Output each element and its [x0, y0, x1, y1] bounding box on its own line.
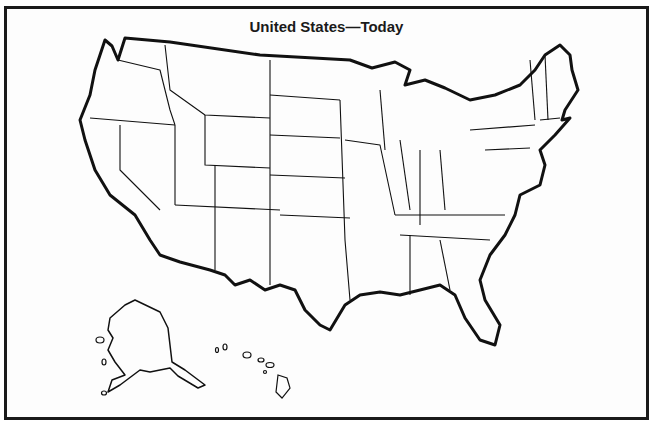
- us-outline-map: [0, 0, 655, 424]
- contiguous-us-outline: [80, 38, 578, 345]
- alaska-island: [102, 391, 107, 395]
- alaska-island: [96, 337, 104, 343]
- alaska-outline: [108, 300, 205, 392]
- hawaii-outline: [216, 344, 291, 398]
- alaska-island: [102, 359, 106, 365]
- state-boundaries: [90, 45, 560, 300]
